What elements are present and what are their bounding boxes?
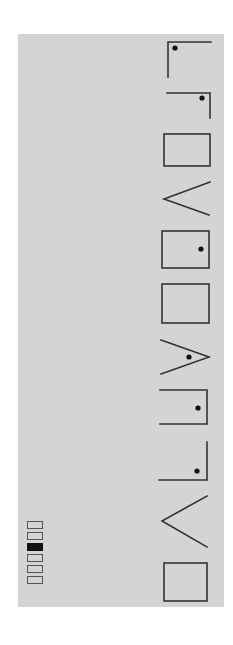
glyph-chevron-right <box>161 340 209 374</box>
glyph-box <box>164 563 207 601</box>
glyph-chevron-left <box>164 182 210 215</box>
glyph-chevron-left <box>162 496 207 547</box>
indicator-cell <box>27 576 43 584</box>
indicator-cell <box>27 565 43 573</box>
dot-icon <box>195 405 200 410</box>
glyph-box <box>162 284 209 323</box>
dot-icon <box>172 45 177 50</box>
position-indicator <box>27 521 45 587</box>
dot-icon <box>199 95 204 100</box>
glyph-corner-bottom-right <box>159 442 207 480</box>
indicator-cell <box>27 532 43 540</box>
dot-icon <box>198 246 203 251</box>
indicator-cell <box>27 554 43 562</box>
indicator-cell <box>27 521 43 529</box>
glyph-box <box>164 134 210 166</box>
dot-icon <box>186 354 191 359</box>
dot-icon <box>194 468 199 473</box>
indicator-cell-active <box>27 543 43 551</box>
